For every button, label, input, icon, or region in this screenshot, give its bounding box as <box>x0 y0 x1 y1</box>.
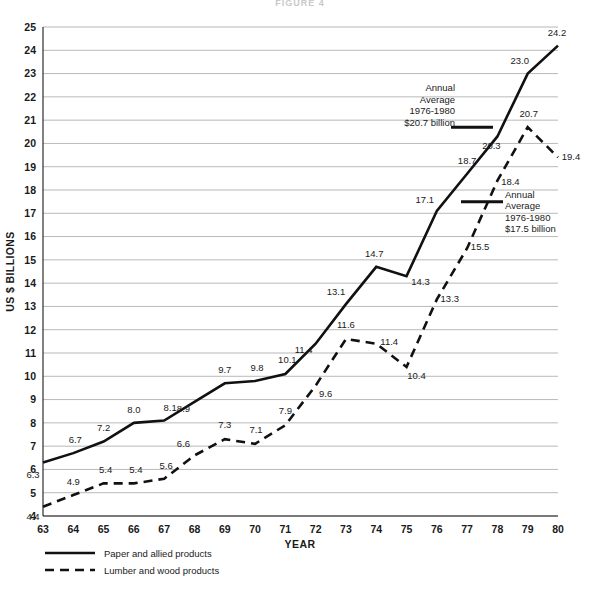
gridlines-group <box>43 27 558 516</box>
x-axis-tick-label: 77 <box>461 523 473 535</box>
x-axis-tick-label: 66 <box>128 523 140 535</box>
data-point-label: 7.9 <box>279 405 292 416</box>
data-point-label: 8.0 <box>127 404 140 415</box>
x-axis-tick-label: 72 <box>310 523 322 535</box>
x-axis-tick-label: 74 <box>370 523 382 535</box>
annotation-text-line: Average <box>505 200 540 211</box>
x-axis-tick-label: 78 <box>492 523 504 535</box>
data-point-label: 15.5 <box>471 241 490 252</box>
data-point-label: 18.4 <box>501 176 520 187</box>
data-point-label: 6.3 <box>26 469 39 480</box>
data-point-label: 20.3 <box>482 140 501 151</box>
y-axis-tick-labels: 45678910111213141516171819202122232425 <box>24 21 36 522</box>
x-axis-tick-label: 80 <box>552 523 564 535</box>
y-axis-tick-label: 10 <box>24 370 36 382</box>
y-axis-tick-label: 9 <box>30 393 36 405</box>
y-axis-tick-label: 7 <box>30 440 36 452</box>
x-axis-tick-label: 64 <box>67 523 79 535</box>
data-point-label: 4.9 <box>67 476 80 487</box>
axis-titles: US $ BILLIONSYEAR <box>4 231 315 550</box>
x-axis-tick-label: 73 <box>340 523 352 535</box>
x-axis-tick-label: 75 <box>401 523 413 535</box>
annotation-text-line: $17.5 billion <box>505 223 556 234</box>
x-axis-tick-label: 76 <box>431 523 443 535</box>
y-axis-tick-label: 16 <box>24 230 36 242</box>
annotation-text-line: $20.7 billion <box>404 117 455 128</box>
x-axis-tick-label: 69 <box>219 523 231 535</box>
annotation-text-line: Annual <box>425 82 455 93</box>
data-point-label: 18.7 <box>458 155 477 166</box>
data-point-label: 24.2 <box>548 27 567 38</box>
data-point-label: 8.1 <box>164 402 177 413</box>
y-axis-tick-label: 14 <box>24 277 36 289</box>
data-point-label: 11.6 <box>337 319 355 330</box>
annotation-text-line: 1976-1980 <box>410 105 455 116</box>
y-axis-tick-label: 8 <box>30 417 36 429</box>
data-point-label: 13.1 <box>327 286 346 297</box>
y-axis-tick-label: 20 <box>24 137 36 149</box>
data-point-label: 19.4 <box>562 151 581 162</box>
x-axis-tick-label: 79 <box>522 523 534 535</box>
y-axis-tick-label: 17 <box>24 207 36 219</box>
data-point-label: 13.3 <box>441 293 460 304</box>
data-point-label: 9.8 <box>250 362 263 373</box>
data-point-labels: 6.36.77.28.08.18.99.79.810.111.413.114.7… <box>26 27 580 522</box>
x-axis-tick-label: 70 <box>249 523 261 535</box>
line-chart: 45678910111213141516171819202122232425 6… <box>0 0 600 589</box>
x-axis-tick-label: 67 <box>158 523 170 535</box>
x-axis-tick-label: 71 <box>280 523 292 535</box>
y-axis-tick-label: 15 <box>24 254 36 266</box>
figure-container: FIGURE 4 4567891011121314151617181920212… <box>0 0 600 589</box>
x-axis-tick-label: 65 <box>98 523 110 535</box>
y-axis-tick-label: 25 <box>24 21 36 33</box>
data-point-label: 17.1 <box>416 194 435 205</box>
y-axis-tick-label: 11 <box>25 347 36 359</box>
y-axis-tick-label: 23 <box>24 67 36 79</box>
data-point-label: 10.4 <box>407 370 426 381</box>
data-point-label: 10.1 <box>278 354 297 365</box>
series-group <box>43 46 558 507</box>
figure-title: FIGURE 4 <box>0 0 600 8</box>
data-point-label: 9.7 <box>218 364 231 375</box>
x-axis-tick-labels: 636465666768697071727374757677787980 <box>37 523 564 535</box>
data-point-label: 11.4 <box>295 344 313 355</box>
data-point-label: 5.4 <box>99 464 112 475</box>
x-axis-tick-label: 63 <box>37 523 49 535</box>
data-point-label: 8.9 <box>177 403 190 414</box>
legend-label: Lumber and wood products <box>104 565 219 576</box>
data-point-label: 11.4 <box>380 336 398 347</box>
y-axis-tick-label: 22 <box>24 91 36 103</box>
data-point-label: 9.6 <box>319 388 332 399</box>
y-axis-tick-label: 12 <box>24 324 36 336</box>
data-point-label: 23.0 <box>510 55 529 66</box>
data-point-label: 7.2 <box>97 422 110 433</box>
data-point-label: 5.6 <box>160 460 173 471</box>
annotation-text-line: Annual <box>505 189 535 200</box>
data-point-label: 4.4 <box>26 511 39 522</box>
data-point-label: 6.6 <box>177 438 190 449</box>
legend-label: Paper and allied products <box>104 548 212 559</box>
x-axis-title: YEAR <box>285 538 316 550</box>
data-point-label: 14.3 <box>411 276 430 287</box>
y-axis-tick-label: 13 <box>24 300 36 312</box>
y-axis-tick-label: 19 <box>24 161 36 173</box>
series-line-lumber <box>43 127 558 507</box>
y-axis-tick-label: 18 <box>24 184 36 196</box>
data-point-label: 5.4 <box>129 464 142 475</box>
annotation-text-line: 1976-1980 <box>505 212 550 223</box>
legend: Paper and allied productsLumber and wood… <box>45 548 219 576</box>
data-point-label: 7.3 <box>218 419 231 430</box>
data-point-label: 6.7 <box>69 434 82 445</box>
y-axis-title: US $ BILLIONS <box>4 231 16 311</box>
y-axis-tick-label: 24 <box>24 44 36 56</box>
annotation-text-line: Average <box>420 94 455 105</box>
data-point-label: 14.7 <box>365 248 384 259</box>
y-axis-tick-label: 5 <box>30 487 36 499</box>
x-axis-tick-label: 68 <box>189 523 201 535</box>
data-point-label: 7.1 <box>249 424 262 435</box>
y-axis-tick-label: 21 <box>24 114 36 126</box>
data-point-label: 20.7 <box>519 108 538 119</box>
